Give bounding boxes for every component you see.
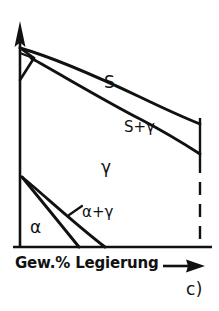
phase-diagram-figure: S S+γ γ α+γ α Gew.% Legierung c) — [0, 0, 219, 311]
phase-label-alpha: α — [30, 219, 42, 236]
phase-label-alpha-plus-gamma: α+γ — [82, 205, 113, 220]
alpha-gamma-leader-line — [69, 206, 82, 215]
x-axis-label: Gew.% Legierung — [15, 256, 159, 271]
peritectic-wedge-lower-edge — [20, 58, 34, 80]
phase-label-liquid-plus-gamma: S+γ — [124, 120, 155, 135]
phase-label-liquid: S — [104, 74, 115, 91]
phase-label-gamma: γ — [101, 159, 112, 176]
panel-label: c) — [186, 281, 203, 298]
x-axis-direction-arrow-icon — [163, 260, 205, 273]
solidus-curve — [31, 58, 200, 154]
